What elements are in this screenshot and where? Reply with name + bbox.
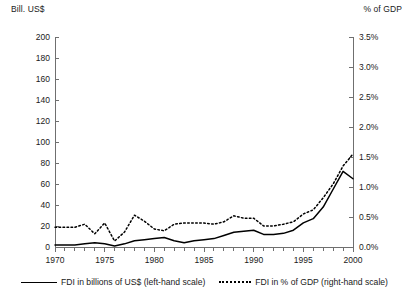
left-tick-label: 180 — [36, 53, 50, 63]
legend-label-fdi-billions: FDI in billions of US$ (left-hand scale) — [61, 277, 205, 287]
x-tick-label: 1990 — [244, 255, 263, 265]
left-axis-ticks: 020406080100120140160180200 — [36, 32, 59, 252]
left-tick-label: 160 — [36, 74, 50, 84]
left-tick-label: 40 — [41, 200, 51, 210]
right-tick-label: 0.5% — [359, 212, 379, 222]
legend-label-fdi-pct-gdp: FDI in % of GDP (right-hand scale) — [255, 277, 388, 287]
x-tick-label: 1970 — [46, 255, 65, 265]
x-tick-label: 1975 — [95, 255, 114, 265]
right-tick-label: 2.5% — [359, 92, 379, 102]
x-tick-label: 1995 — [294, 255, 313, 265]
right-tick-label: 2.0% — [359, 122, 379, 132]
plot-area: 020406080100120140160180200 0.0%0.5%1.0%… — [0, 0, 409, 270]
left-tick-label: 60 — [41, 179, 51, 189]
series-fdi-billions-line — [55, 171, 353, 246]
left-tick-label: 120 — [36, 116, 50, 126]
series-fdi-pct-gdp-line — [55, 154, 353, 241]
fdi-line-chart: Bill. US$ % of GDP 020406080100120140160… — [0, 0, 409, 296]
x-tick-label: 1980 — [145, 255, 164, 265]
left-tick-label: 200 — [36, 32, 50, 42]
x-axis-ticks: 1970197519801985199019952000 — [46, 247, 363, 265]
x-tick-label: 2000 — [344, 255, 363, 265]
left-tick-label: 140 — [36, 95, 50, 105]
dotted-line-swatch-icon — [219, 281, 251, 283]
legend-item-fdi-billions: FDI in billions of US$ (left-hand scale) — [21, 277, 205, 287]
left-tick-label: 20 — [41, 221, 51, 231]
right-tick-label: 3.0% — [359, 62, 379, 72]
solid-line-swatch-icon — [21, 282, 57, 283]
chart-legend: FDI in billions of US$ (left-hand scale)… — [0, 272, 409, 292]
left-tick-label: 100 — [36, 137, 50, 147]
right-tick-label: 3.5% — [359, 32, 379, 42]
right-tick-label: 1.5% — [359, 152, 379, 162]
left-tick-label: 80 — [41, 158, 51, 168]
right-tick-label: 1.0% — [359, 182, 379, 192]
left-tick-label: 0 — [45, 242, 50, 252]
right-tick-label: 0.0% — [359, 242, 379, 252]
legend-item-fdi-pct-gdp: FDI in % of GDP (right-hand scale) — [219, 277, 388, 287]
x-tick-label: 1985 — [195, 255, 214, 265]
